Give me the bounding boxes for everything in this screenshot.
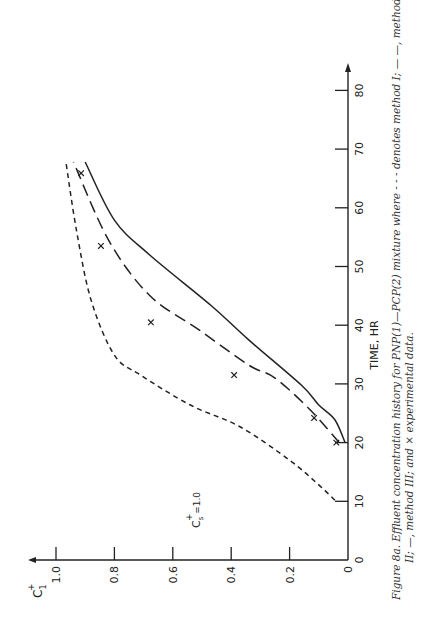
experimental-markers [78, 170, 339, 445]
x-marker-icon [231, 372, 237, 378]
axes [28, 63, 351, 563]
c1-tick-label: 0 [342, 566, 355, 573]
time-tick-label: 80 [353, 83, 366, 97]
c1-tick-label: 0.2 [284, 566, 297, 584]
curve-method-I [66, 162, 335, 500]
time-tick-label: 20 [353, 436, 366, 450]
time-tick-label: 30 [353, 377, 366, 391]
time-tick-label: 40 [353, 318, 366, 332]
time-axis-arrow-icon [345, 63, 351, 72]
time-tick-label: 70 [353, 142, 366, 156]
c1-tick-label: 0.4 [225, 566, 238, 584]
annotation-sup: + [184, 513, 194, 521]
time-tick-label: 0 [353, 557, 366, 564]
annotation-value: =1.0 [192, 492, 202, 517]
y-label-sub: 1 [39, 585, 48, 590]
c1-axis-arrow-icon [28, 557, 36, 563]
caption-line-1: Figure 8a. Effluent concentration histor… [390, 0, 402, 601]
c1-ticks: 00.20.40.60.81.0 [50, 547, 355, 584]
y-axis-label: C1 + [26, 583, 48, 598]
svg-text:Cs =1.0: Cs =1.0 [190, 492, 205, 528]
chart: 00.20.40.60.81.0 01020304050607080 C1 + … [0, 0, 428, 629]
x-marker-icon [148, 319, 154, 325]
c1-tick-label: 0.8 [108, 566, 121, 584]
time-ticks: 01020304050607080 [335, 83, 366, 563]
c1-tick-label: 0.6 [167, 566, 180, 584]
x-axis-label: TIME, HR [368, 320, 381, 371]
x-marker-icon [78, 170, 84, 176]
y-label-sup: + [26, 583, 36, 591]
caption-line-2: II; —, method III; and × experimental da… [403, 332, 415, 564]
series-group [66, 162, 345, 500]
cs-annotation: Cs =1.0 + [184, 492, 205, 528]
x-marker-icon [98, 243, 104, 249]
x-marker-icon [311, 415, 317, 421]
curve-method-III [85, 162, 345, 443]
time-tick-label: 10 [353, 494, 366, 508]
c1-tick-label: 1.0 [50, 566, 63, 584]
time-tick-label: 60 [353, 201, 366, 215]
time-tick-label: 50 [353, 260, 366, 274]
